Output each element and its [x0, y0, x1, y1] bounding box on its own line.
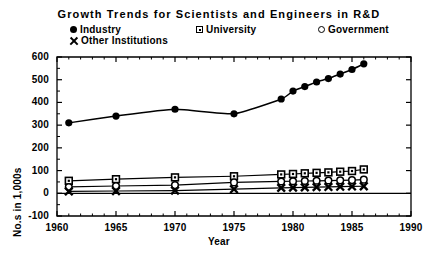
- data-point: [337, 177, 344, 184]
- data-point: [278, 95, 285, 102]
- data-point: [361, 176, 368, 183]
- x-tick-label: 1990: [395, 222, 427, 233]
- data-point: [172, 174, 179, 181]
- data-point: [348, 66, 355, 73]
- data-point: [313, 78, 320, 85]
- y-tick-label: 200: [0, 142, 49, 153]
- x-tick-label: 1965: [100, 222, 132, 233]
- data-point: [360, 166, 367, 173]
- data-point: [231, 179, 238, 186]
- y-tick-label: 300: [0, 119, 49, 130]
- data-point: [302, 178, 309, 185]
- data-point: [349, 168, 356, 175]
- data-point: [112, 112, 119, 119]
- x-tick-label: 1960: [41, 222, 73, 233]
- plot-area: [0, 0, 438, 256]
- data-point: [349, 177, 356, 184]
- data-point: [360, 60, 367, 67]
- y-tick-label: -100: [0, 210, 49, 221]
- y-axis-label: No.s in 1,000s: [12, 168, 23, 238]
- y-tick-label: 100: [0, 165, 49, 176]
- y-tick-label: 600: [0, 51, 49, 62]
- x-tick-label: 1985: [336, 222, 368, 233]
- y-tick-label: 500: [0, 74, 49, 85]
- data-point: [171, 106, 178, 113]
- x-tick-label: 1980: [277, 222, 309, 233]
- data-point: [65, 119, 72, 126]
- data-point: [325, 177, 332, 184]
- chart-figure: Growth Trends for Scientists and Enginee…: [0, 0, 438, 256]
- x-tick-label: 1970: [159, 222, 191, 233]
- data-point: [301, 170, 308, 177]
- data-point: [278, 178, 285, 185]
- y-tick-label: 0: [0, 187, 49, 198]
- data-point: [337, 168, 344, 175]
- data-point: [230, 110, 237, 117]
- x-tick-label: 1975: [218, 222, 250, 233]
- data-point: [278, 171, 285, 178]
- x-axis-label: Year: [0, 236, 438, 247]
- y-tick-label: 400: [0, 96, 49, 107]
- data-point: [301, 83, 308, 90]
- data-point: [313, 177, 320, 184]
- data-point: [290, 178, 297, 185]
- data-point: [113, 176, 120, 183]
- data-point: [337, 70, 344, 77]
- data-point: [325, 169, 332, 176]
- data-point: [325, 75, 332, 82]
- data-point: [313, 169, 320, 176]
- data-point: [290, 171, 297, 178]
- data-point: [289, 87, 296, 94]
